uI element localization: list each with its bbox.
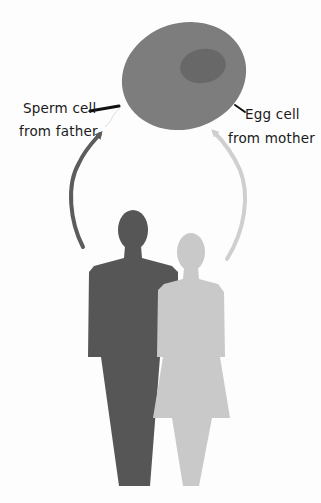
- sperm-cell: [105, 107, 121, 127]
- mother-arrow: [214, 132, 245, 259]
- father-arrow: [71, 134, 100, 247]
- diagram-graphic: [0, 0, 321, 503]
- egg-label-line1: Egg cell: [245, 103, 300, 125]
- egg-label-line2: from mother: [228, 127, 315, 149]
- diagram: Sperm cell from father Egg cell from mot…: [0, 0, 321, 503]
- egg-pointer-line: [235, 105, 245, 112]
- sperm-label-line2: from father: [19, 120, 98, 142]
- sperm-label-line1: Sperm cell: [23, 97, 96, 119]
